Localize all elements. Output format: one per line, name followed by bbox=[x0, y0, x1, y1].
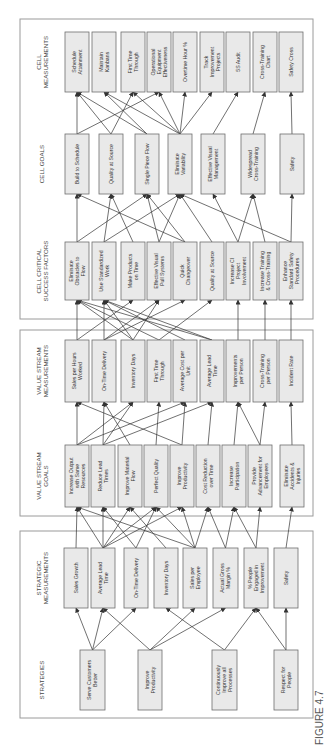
box-label: Effective VisualPull Systems bbox=[153, 253, 165, 288]
cell-measurements-box: Cross-TrainingChart bbox=[253, 32, 277, 92]
cell-measurements-box: TrackImprovementProjects bbox=[200, 32, 224, 92]
value-stream-goals-box: IncreaseParticipation bbox=[222, 445, 246, 507]
cell-critical-success-factors-box: QuickChangeover bbox=[173, 242, 197, 300]
strategies-box: Serve CustomersBetter bbox=[80, 650, 105, 710]
strategic-measurements-box: % PeopleEngaged inImprovement bbox=[244, 548, 268, 608]
connector-arrow bbox=[238, 194, 253, 242]
box-label: Increase Training& Cross-Training bbox=[259, 251, 271, 291]
box-label: Cross-Trainingper Person bbox=[259, 354, 271, 388]
connector-arrow bbox=[104, 194, 111, 242]
connector-arrow bbox=[93, 608, 137, 650]
strategies-box: ContinuouslyImprove allProcesses bbox=[212, 650, 237, 710]
box-label: ScheduleAttainment bbox=[71, 49, 83, 74]
connector-arrow bbox=[256, 507, 260, 548]
box-label: Sales perEmployee bbox=[189, 566, 201, 589]
box-label: % PeopleEngaged inImprovement bbox=[247, 562, 265, 593]
cell-critical-success-factors-box: Increase CIProjectInvolvement bbox=[226, 242, 250, 300]
connector-arrow bbox=[291, 92, 292, 134]
value-stream-measurements-heading: VALUE STREAMMEASUREMENTS bbox=[35, 345, 50, 397]
connector-arrow bbox=[208, 402, 212, 445]
value-stream-goals-box: Cost Reductionover Time bbox=[196, 445, 220, 507]
connector-arrow bbox=[77, 92, 147, 134]
boxes-layer: STRATEGIESServe CustomersBetterImprovePr… bbox=[35, 32, 305, 710]
value-stream-measurements-box: Improvementsper Person bbox=[226, 340, 250, 402]
connector-arrow bbox=[77, 402, 133, 445]
connector-arrow bbox=[225, 608, 257, 650]
value-stream-goals-box: ImproveProductivity bbox=[170, 445, 194, 507]
value-stream-goals-box: Increase Outputwith SameResources bbox=[65, 445, 89, 507]
connector-arrow bbox=[260, 402, 265, 445]
value-stream-measurements-box: Inventory Days bbox=[121, 340, 145, 402]
figure-caption: FIGURE 4.7 bbox=[314, 690, 325, 745]
connector-arrow bbox=[166, 608, 225, 650]
box-label: OperationalEquipmentEffectiveness bbox=[150, 46, 168, 77]
connector-arrow bbox=[286, 507, 292, 548]
strategic-measurements-heading: STRATEGICMEASUREMENTS bbox=[35, 552, 50, 604]
connector-arrow bbox=[234, 507, 256, 548]
connector-arrow bbox=[180, 92, 185, 134]
connector-arrow bbox=[234, 402, 238, 445]
connector-arrow bbox=[111, 194, 133, 242]
value-stream-measurements-box: Incident Rate bbox=[279, 340, 303, 402]
connector-arrow bbox=[77, 300, 212, 340]
box-label: Safety bbox=[283, 570, 289, 585]
connector-arrow bbox=[103, 608, 150, 650]
box-label: Quality at Source bbox=[209, 251, 215, 291]
strategic-measurements-box: Inventory Days bbox=[154, 548, 178, 608]
value-stream-measurements-box: First TimeThrough bbox=[147, 340, 171, 402]
connector-arrow bbox=[77, 507, 195, 548]
box-label: Overtime Hour % bbox=[182, 42, 188, 82]
cell-measurements-box: First TimeThrough bbox=[121, 32, 145, 92]
connector-arrow bbox=[182, 507, 195, 548]
box-label: 5S Audit bbox=[235, 52, 241, 72]
connector-arrow bbox=[156, 507, 195, 548]
box-label: ContinuouslyImprove allProcesses bbox=[215, 665, 233, 695]
box-label: First TimeThrough bbox=[127, 51, 139, 74]
box-label: On-Time Delivery bbox=[133, 558, 139, 599]
cell-critical-success-factors-box: Make Productson Time bbox=[121, 242, 145, 300]
cell-measurements-box: Overtime Hour % bbox=[173, 32, 197, 92]
box-label: EliminateVariability bbox=[174, 153, 186, 176]
cell-measurements-box: OperationalEquipmentEffectiveness bbox=[147, 32, 171, 92]
cell-goals-heading: CELL GOALS bbox=[38, 145, 45, 183]
cell-critical-success-factors-box: Quality at Source bbox=[200, 242, 224, 300]
cell-critical-success-factors-box: Increase Training& Cross-Training bbox=[253, 242, 277, 300]
connector-arrow bbox=[291, 194, 292, 242]
strategic-measurements-box: Sales perEmployee bbox=[183, 548, 207, 608]
cell-critical-success-factors-box: EliminateObstacles toFlow bbox=[65, 242, 89, 300]
value-stream-goals-box: Perfect Quality bbox=[144, 445, 168, 507]
cell-goals-box: Build to Schedule bbox=[65, 134, 89, 194]
connector-arrow bbox=[253, 92, 265, 134]
value-stream-measurements-box: Average LeadTime bbox=[200, 340, 224, 402]
strategic-measurements-box: Average LeadTime bbox=[91, 548, 115, 608]
box-label: Inventory Days bbox=[163, 560, 169, 595]
box-label: Improvementsper Person bbox=[232, 354, 244, 387]
box-label: Quality at Source bbox=[108, 144, 114, 184]
box-label: On-Time Delivery bbox=[101, 351, 107, 392]
value-stream-goals-box: ProvideAdvancement forEmployees bbox=[248, 445, 272, 507]
cell-critical-success-factors-box: EnhanceStandard SafetyProcedures bbox=[279, 242, 303, 300]
cell-measurements-heading: CELLMEASUREMENTS bbox=[35, 36, 50, 88]
connector-arrow bbox=[291, 402, 292, 445]
connector-arrow bbox=[213, 194, 238, 242]
connector-arrow bbox=[104, 92, 180, 134]
box-label: Actual GrossMargin % bbox=[219, 563, 231, 593]
cell-goals-box: WidespreadCross-Training bbox=[241, 134, 265, 194]
value-stream-goals-heading: VALUE STREAMGOALS bbox=[35, 452, 50, 499]
cell-measurements-box: ScheduleAttainment bbox=[65, 32, 89, 92]
value-stream-measurements-box: Average Cost perUnit bbox=[173, 340, 197, 402]
connector-arrow bbox=[226, 507, 235, 548]
connector-arrow bbox=[103, 507, 136, 548]
connector-arrow bbox=[111, 92, 133, 134]
connector-arrow bbox=[253, 194, 265, 242]
box-label: Build to Schedule bbox=[74, 144, 80, 184]
box-label: Perfect Quality bbox=[153, 459, 159, 493]
strategies-box: Respect forPeople bbox=[274, 650, 298, 710]
strategies-box: ImproveProductivity bbox=[138, 650, 162, 710]
box-label: Safety Cross bbox=[288, 47, 294, 77]
cell-critical-success-factors-heading: CELL CRITICALSUCCESS FACTORS bbox=[35, 241, 50, 302]
value-stream-measurements-box: Cross-Trainingper Person bbox=[253, 340, 277, 402]
connector-arrow bbox=[103, 507, 130, 548]
value-stream-goals-box: Reduce LeadTimes bbox=[91, 445, 115, 507]
box-label: MaintainKanbans bbox=[98, 51, 110, 72]
